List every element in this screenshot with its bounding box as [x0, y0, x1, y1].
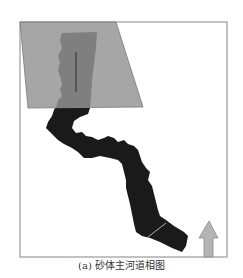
- figure-caption: (a) 砂体主河道相图: [0, 259, 243, 273]
- channel-map: [0, 0, 243, 278]
- figure: (a) 砂体主河道相图: [0, 0, 243, 278]
